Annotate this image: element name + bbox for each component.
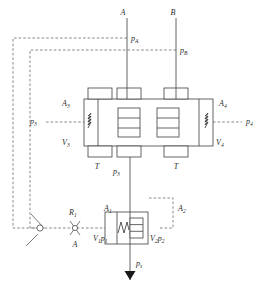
label-pressure-b: pB — [179, 46, 188, 56]
pressure-source-icon — [125, 271, 136, 280]
label-volume-v3: V3 — [62, 138, 70, 148]
label-pressure-p3-left: p3 — [29, 117, 37, 127]
pilot-valve-body — [105, 212, 148, 244]
diagram-canvas: A B pA pB A3 p3 V3 A4 p4 V4 T T p3 R1 A … — [0, 0, 269, 294]
label-volume-v4: V4 — [216, 138, 224, 148]
label-tank-left: T — [95, 162, 100, 171]
dashed-pilot-feedback-right — [148, 198, 173, 228]
label-restrictor-r1: R1 — [68, 208, 77, 218]
label-area-a4: A4 — [218, 99, 227, 109]
hydraulic-schematic-svg: A B pA pB A3 p3 V3 A4 p4 V4 T T p3 R1 A … — [0, 0, 269, 294]
label-area-a1: A1 — [103, 204, 112, 214]
label-area-a2: A2 — [177, 204, 186, 214]
label-tank-right: T — [174, 162, 179, 171]
label-restrictor-port-a: A — [72, 240, 78, 249]
label-pressure-p3-pilot: p3 — [112, 167, 120, 177]
label-port-b: B — [171, 8, 176, 17]
label-port-a: A — [120, 8, 126, 17]
pivot-node-icon — [26, 214, 43, 246]
label-pressure-p4-right: p4 — [245, 117, 253, 127]
main-spool-valve-body — [84, 88, 213, 157]
label-chamber-v2p2: V2p2 — [150, 234, 165, 244]
label-supply-pressure: ps — [135, 259, 142, 269]
label-area-a3: A3 — [61, 99, 70, 109]
label-pressure-a: pA — [130, 34, 139, 44]
